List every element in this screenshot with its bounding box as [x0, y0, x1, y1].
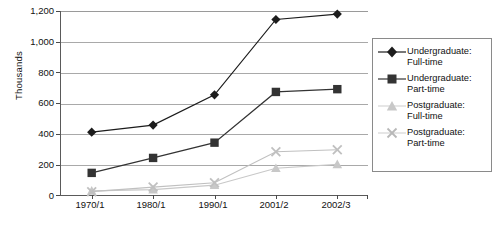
y-tick-label: 800 — [8, 68, 54, 78]
cross-marker-icon — [377, 126, 407, 148]
legend-label-line1: Undergraduate: — [407, 46, 472, 56]
series-line — [92, 89, 338, 173]
series-lines — [61, 11, 368, 196]
triangle-data-point — [333, 160, 343, 169]
legend-label-line2: Part-time — [407, 138, 445, 148]
y-tick-label: 600 — [8, 98, 54, 108]
diamond-marker-icon — [377, 45, 407, 67]
legend-label: Postgraduate: Full-time — [407, 99, 465, 121]
legend-item-postgraduate-full-time[interactable]: Postgraduate: Full-time — [377, 99, 486, 121]
plot-area — [60, 11, 367, 196]
legend-label: Undergraduate: Part-time — [407, 72, 472, 94]
diamond-data-point — [333, 9, 342, 18]
square-data-point — [88, 169, 96, 177]
chart-legend: Undergraduate: Full-time Undergraduate: … — [372, 38, 492, 172]
triangle-marker-icon — [377, 99, 407, 121]
y-tick-label: 1,200 — [8, 6, 54, 16]
legend-item-undergraduate-full-time[interactable]: Undergraduate: Full-time — [377, 45, 486, 67]
series-diamond — [87, 9, 342, 136]
diamond-data-point — [87, 128, 96, 137]
square-marker-icon — [377, 72, 407, 94]
legend-label-line2: Part-time — [407, 84, 445, 94]
legend-item-undergraduate-part-time[interactable]: Undergraduate: Part-time — [377, 72, 486, 94]
y-tick-label: 0 — [8, 191, 54, 201]
legend-label-line2: Full-time — [407, 111, 443, 121]
legend-label-line1: Postgraduate: — [407, 100, 465, 110]
y-tick-label: 200 — [8, 160, 54, 170]
y-tick-label: 1,000 — [8, 37, 54, 47]
y-tick-label: 400 — [8, 129, 54, 139]
legend-label-line1: Postgraduate: — [407, 127, 465, 137]
square-data-point — [149, 154, 157, 162]
x-tick-label: 1990/1 — [183, 199, 243, 210]
legend-label: Postgraduate: Part-time — [407, 126, 465, 148]
legend-label-line1: Undergraduate: — [407, 73, 472, 83]
x-tick-label: 2001/2 — [244, 199, 304, 210]
legend-label: Undergraduate: Full-time — [407, 45, 472, 67]
square-data-point — [333, 85, 341, 93]
legend-item-postgraduate-part-time[interactable]: Postgraduate: Part-time — [377, 126, 486, 148]
series-line — [92, 14, 338, 132]
x-tick-label: 1970/1 — [60, 199, 120, 210]
x-tick-label: 1980/1 — [121, 199, 181, 210]
legend-label-line2: Full-time — [407, 57, 443, 67]
square-data-point — [210, 138, 218, 146]
x-tick-label: 2002/3 — [306, 199, 366, 210]
chart-container: Thousands 1,200 1,000 800 600 400 200 0 … — [0, 0, 497, 226]
square-data-point — [272, 88, 280, 96]
diamond-data-point — [149, 120, 158, 129]
